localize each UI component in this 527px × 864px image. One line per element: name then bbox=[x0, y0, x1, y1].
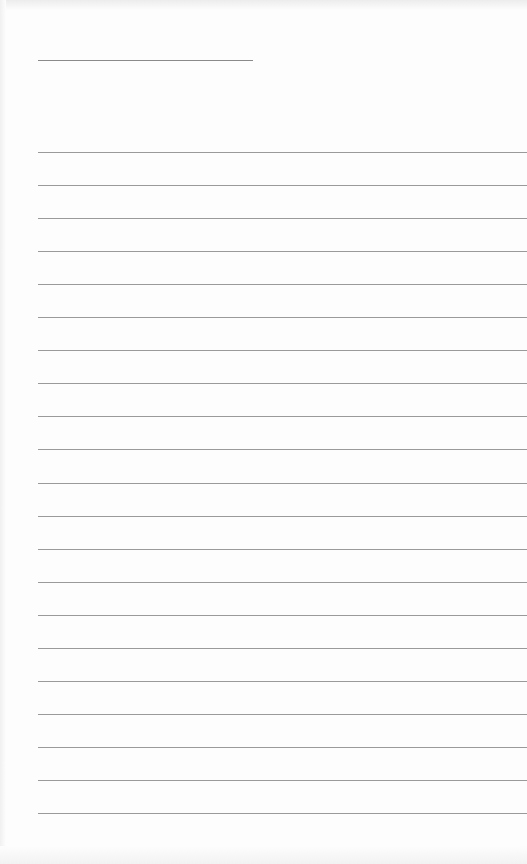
ruled-line bbox=[38, 383, 527, 384]
ruled-line bbox=[38, 516, 527, 517]
ruled-line bbox=[38, 813, 527, 814]
ruled-line bbox=[38, 350, 527, 351]
ruled-line bbox=[38, 317, 527, 318]
ruled-line bbox=[38, 416, 527, 417]
ruled-line bbox=[38, 218, 527, 219]
ruled-line bbox=[38, 449, 527, 450]
page-bottom-edge bbox=[0, 846, 527, 864]
ruled-line bbox=[38, 780, 527, 781]
ruled-line bbox=[38, 648, 527, 649]
ruled-line bbox=[38, 615, 527, 616]
page-top-edge bbox=[0, 0, 527, 10]
header-name-line bbox=[38, 60, 253, 61]
ruled-line bbox=[38, 152, 527, 153]
ruled-line bbox=[38, 714, 527, 715]
ruled-line bbox=[38, 549, 527, 550]
ruled-line bbox=[38, 251, 527, 252]
page-left-edge bbox=[0, 0, 6, 864]
ruled-line bbox=[38, 185, 527, 186]
ruled-line bbox=[38, 681, 527, 682]
ruled-line bbox=[38, 483, 527, 484]
ruled-line bbox=[38, 747, 527, 748]
ruled-line bbox=[38, 284, 527, 285]
ruled-line bbox=[38, 582, 527, 583]
